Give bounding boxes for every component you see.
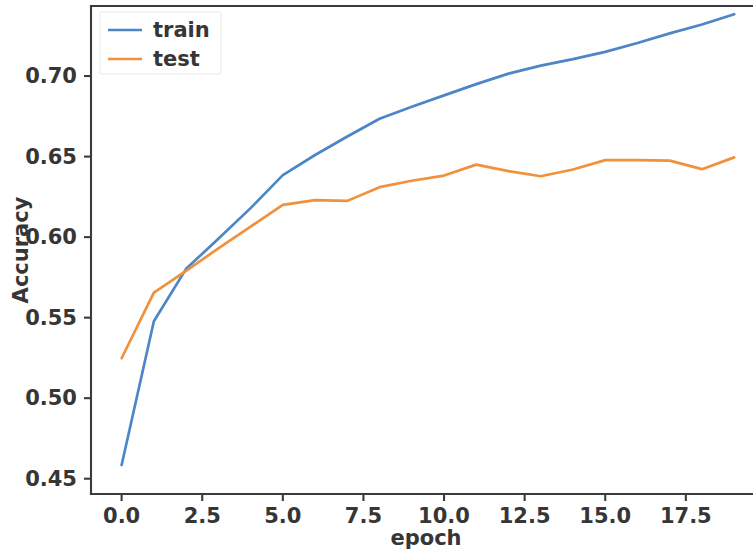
y-axis-label: Accuracy — [9, 196, 33, 303]
x-tick-label: 12.5 — [499, 504, 551, 528]
x-axis-ticks: 0.02.55.07.510.012.515.017.5 — [103, 494, 712, 528]
y-tick-label: 0.50 — [25, 386, 77, 410]
legend-label-train: train — [153, 18, 210, 42]
data-series-group — [122, 14, 735, 465]
series-line-train — [122, 14, 735, 465]
chart-legend[interactable]: train test — [100, 12, 221, 74]
x-tick-label: 2.5 — [184, 504, 221, 528]
accuracy-vs-epoch-chart: 0.02.55.07.510.012.515.017.5 0.450.500.5… — [0, 0, 753, 556]
x-tick-label: 17.5 — [660, 504, 712, 528]
x-tick-label: 5.0 — [264, 504, 301, 528]
x-axis-label: epoch — [390, 526, 461, 550]
y-tick-label: 0.65 — [25, 145, 77, 169]
x-tick-label: 7.5 — [345, 504, 382, 528]
x-tick-label: 10.0 — [418, 504, 470, 528]
matplotlib-figure: 0.02.55.07.510.012.515.017.5 0.450.500.5… — [0, 0, 753, 556]
y-axis-ticks: 0.450.500.550.600.650.70 — [25, 64, 91, 491]
series-line-test — [122, 157, 735, 358]
plot-frame — [91, 6, 753, 494]
y-tick-label: 0.55 — [25, 306, 77, 330]
legend-label-test: test — [153, 47, 200, 71]
y-tick-label: 0.70 — [25, 64, 77, 88]
y-tick-label: 0.45 — [25, 467, 77, 491]
x-tick-label: 0.0 — [103, 504, 140, 528]
x-tick-label: 15.0 — [579, 504, 631, 528]
